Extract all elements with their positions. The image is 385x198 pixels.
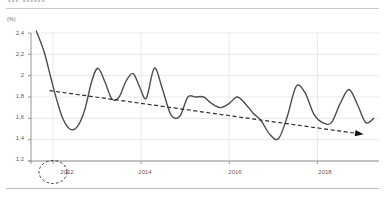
trend-arrowhead [355,130,364,136]
axis-lines [28,33,379,164]
data-series-line [36,31,373,140]
tick-marks [28,33,317,164]
chart-page: ••• •••••• (%) 2,4 2,2 2 1,8 1,6 1,4 1,2… [0,0,385,198]
line-chart-plot [0,0,385,198]
footer-divider [6,188,379,189]
